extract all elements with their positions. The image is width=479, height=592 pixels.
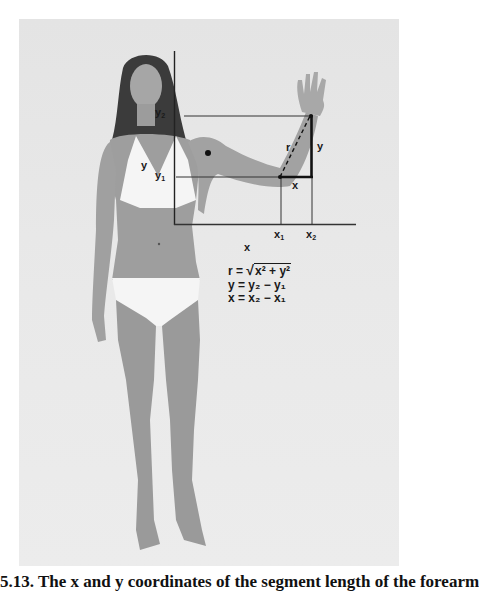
equation-x: x = x₂ − x₁ <box>228 292 286 305</box>
left-leg <box>116 300 160 550</box>
label-x-segment: x <box>292 180 298 191</box>
label-r: r <box>286 142 290 153</box>
label-y-right: y <box>317 141 323 152</box>
label-y2: y2 <box>155 107 165 121</box>
label-x2: x2 <box>306 229 316 243</box>
label-x-axis: x <box>244 242 250 253</box>
label-y-left: y <box>141 160 147 171</box>
label-x1: x1 <box>274 229 284 243</box>
shoulder-joint-marker <box>205 150 211 156</box>
equation-r: r = √x² + y² <box>228 264 291 278</box>
right-leg <box>162 300 206 546</box>
left-arm <box>92 142 116 342</box>
right-arm <box>188 112 318 214</box>
wrist-marker <box>309 114 313 118</box>
face <box>130 64 162 108</box>
label-y1: y1 <box>155 170 165 184</box>
figure-caption: 5.13. The x and y coordinates of the seg… <box>0 572 479 592</box>
right-hand <box>297 72 326 116</box>
elbow-marker <box>278 175 282 179</box>
